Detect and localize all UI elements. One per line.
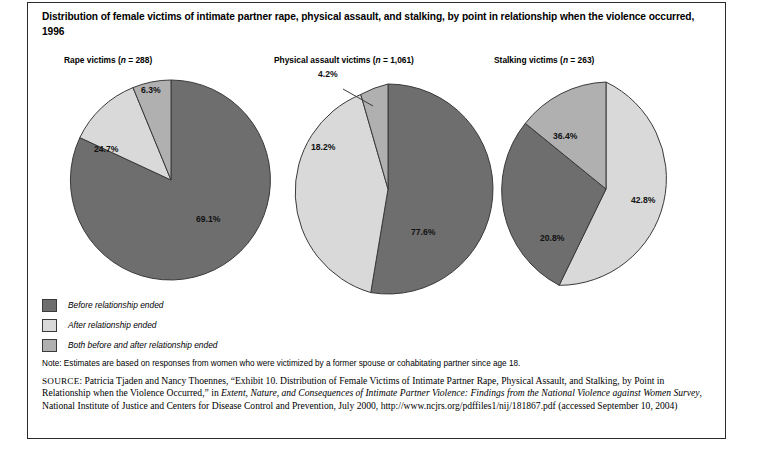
pie-chart-physical-assault-victims: 77.6% 18.2% 4.2% xyxy=(280,81,496,297)
pie-label-assault-both: 4.2% xyxy=(318,69,338,79)
pie-chart-rape-victims: 69.1% 24.7% 6.3% xyxy=(68,77,274,283)
panel-title-text: Rape victims ( xyxy=(64,55,121,65)
panel-stalking-victims: Stalking victims (n = 263) 42.8% 20.8% 3… xyxy=(494,55,724,290)
pie-chart-stalking-victims: 42.8% 20.8% 36.4% xyxy=(496,79,716,299)
pie-label-stalking-after: 42.8% xyxy=(631,195,655,205)
pie-label-stalking-both: 36.4% xyxy=(553,131,577,141)
legend-label-both: Both before and after relationship ended xyxy=(68,340,217,350)
figure-source: SOURCE: Patricia Tjaden and Nancy Thoenn… xyxy=(42,375,714,412)
legend-swatch-before-icon xyxy=(42,299,57,312)
panel-title-text: Stalking victims ( xyxy=(494,55,563,65)
panel-title-tail: = 288) xyxy=(126,55,152,65)
panel-title-text: Physical assault victims ( xyxy=(274,55,375,65)
panel-title-physical-assault-victims: Physical assault victims (n = 1,061) xyxy=(274,55,414,65)
pie-label-assault-before: 77.6% xyxy=(411,227,435,237)
pie-svg-stalking xyxy=(496,79,716,299)
panel-rape-victims: Rape victims (n = 288) 69.1% 24.7% 6.3% xyxy=(64,55,294,285)
pie-label-rape-after: 24.7% xyxy=(94,144,118,154)
legend-swatch-both-icon xyxy=(42,339,57,352)
panel-title-stalking-victims: Stalking victims (n = 263) xyxy=(494,55,594,65)
legend-label-before: Before relationship ended xyxy=(68,300,163,310)
pie-svg-rape xyxy=(68,77,274,283)
legend-label-after: After relationship ended xyxy=(68,320,156,330)
pie-label-rape-both: 6.3% xyxy=(141,85,161,95)
legend-swatch-after-icon xyxy=(42,319,57,332)
panel-physical-assault-victims: Physical assault victims (n = 1,061) 77.… xyxy=(274,55,514,290)
legend-item-both-before-and-after: Both before and after relationship ended xyxy=(42,335,217,355)
pie-slice-before-relationship-ended xyxy=(371,84,493,294)
pie-svg-physical-assault xyxy=(280,81,496,297)
panel-title-tail: = 1,061) xyxy=(381,55,414,65)
chart-legend: Before relationship ended After relation… xyxy=(42,295,217,355)
panel-title-tail: = 263) xyxy=(568,55,594,65)
pie-label-rape-before: 69.1% xyxy=(196,214,220,224)
figure-note: Note: Estimates are based on responses f… xyxy=(42,358,712,370)
figure-frame: Distribution of female victims of intima… xyxy=(27,2,726,439)
source-prefix: SOURCE xyxy=(42,376,79,386)
pie-label-stalking-before: 20.8% xyxy=(540,233,564,243)
pie-label-assault-after: 18.2% xyxy=(311,142,335,152)
legend-item-before-relationship-ended: Before relationship ended xyxy=(42,295,217,315)
source-italic-title: Extent, Nature, and Consequences of Inti… xyxy=(221,387,699,398)
panel-title-rape-victims: Rape victims (n = 288) xyxy=(64,55,152,65)
figure-title: Distribution of female victims of intima… xyxy=(42,9,710,39)
legend-item-after-relationship-ended: After relationship ended xyxy=(42,315,217,335)
